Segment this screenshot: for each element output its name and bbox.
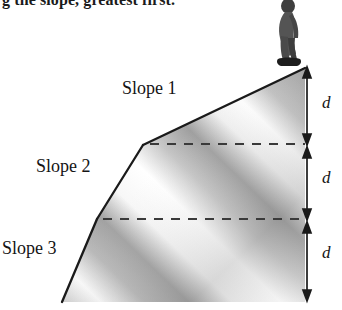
slope-diagram-svg — [0, 0, 342, 310]
distance-label-1: d — [322, 93, 331, 113]
person-icon — [277, 0, 301, 66]
slope-2-label: Slope 2 — [36, 156, 91, 177]
distance-label-3: d — [322, 243, 331, 263]
slope-3-label: Slope 3 — [2, 238, 57, 259]
hill-highlight — [55, 60, 315, 308]
figure-canvas: g the slope, greatest first. — [0, 0, 342, 310]
slope-1-label: Slope 1 — [122, 78, 177, 99]
distance-label-2: d — [322, 168, 331, 188]
hill-shape — [55, 60, 315, 308]
